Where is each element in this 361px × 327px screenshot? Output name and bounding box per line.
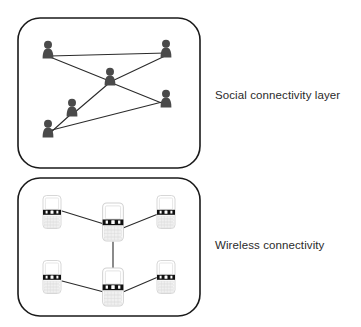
social-panel-border xyxy=(18,18,200,168)
phone-node-top-center[interactable] xyxy=(103,203,124,241)
phone-node-top-left[interactable] xyxy=(43,196,61,229)
wireless-connectivity-label: Wireless connectivity xyxy=(215,239,324,251)
network-diagram-svg xyxy=(0,0,361,327)
phone-node-bottom-left[interactable] xyxy=(43,261,61,294)
diagram-canvas: Social connectivity layer Wireless conne… xyxy=(0,0,361,327)
phone-node-bottom-right[interactable] xyxy=(157,261,175,294)
phone-node-bottom-center[interactable] xyxy=(103,268,124,306)
social-connectivity-label: Social connectivity layer xyxy=(215,89,340,101)
wireless-connectivity-panel xyxy=(18,178,200,316)
social-connectivity-panel xyxy=(18,18,200,168)
phone-node-top-right[interactable] xyxy=(157,196,175,229)
